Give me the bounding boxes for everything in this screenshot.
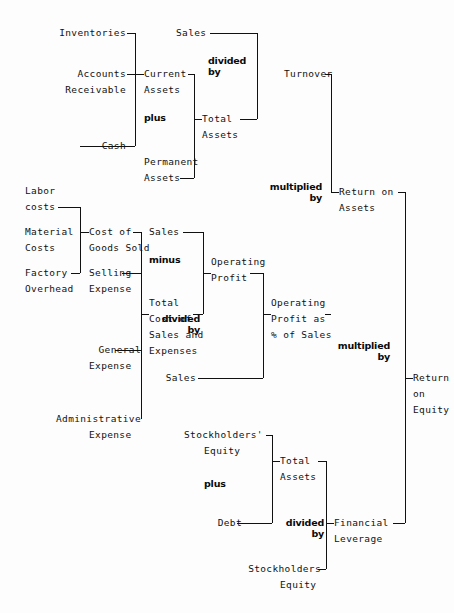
connector-current-assets-out	[135, 74, 144, 75]
connector-total-assets-top-out	[194, 119, 202, 120]
bracket-cogs-inputs	[80, 207, 81, 273]
bracket-total-assets-bottom	[272, 435, 273, 523]
bracket-operating-margin	[263, 273, 264, 378]
node-current: Current	[144, 68, 187, 79]
connector-total-assets-bottom-out	[272, 461, 280, 462]
bracket-current-assets	[135, 33, 136, 146]
node-inventories: Inventories	[46, 27, 126, 38]
connector-sales-denominator	[198, 378, 263, 379]
connector-stockholders-denominator	[318, 569, 326, 570]
node-return-on: Return on	[339, 186, 394, 197]
node-leverage: Leverage	[334, 533, 383, 544]
node-op-profit-as-line2: Profit as	[271, 313, 326, 324]
connector-financial-leverage-out	[326, 523, 334, 524]
connector-roe-out	[405, 378, 413, 379]
node-administrative-expense: Expense	[89, 429, 132, 440]
node-total-assets-top-line1: Total	[202, 113, 232, 124]
node-administrative: Administrative	[35, 413, 141, 424]
node-selling-expense: Expense	[89, 283, 132, 294]
connector-cogs-to-total	[133, 232, 141, 233]
node-accounts-receivable: Receivable	[46, 84, 126, 95]
node-return-roe-line2: on	[413, 388, 425, 399]
bracket-turnover	[257, 33, 258, 119]
connector-total-assets-bottom-to-leverage	[318, 461, 326, 462]
node-debt: Debt	[200, 517, 242, 528]
connector-profit-to-margin	[250, 273, 263, 274]
bracket-return-on-equity	[405, 192, 406, 523]
node-total-assets-bottom-line1: Total	[280, 455, 310, 466]
node-factory: Factory	[25, 267, 68, 278]
connector-sales-top	[210, 33, 257, 34]
node-op-profit-as-line3: % of Sales	[271, 329, 332, 340]
operator-multiplied-by-roe: multiplied by	[318, 340, 390, 362]
connector-accounts	[127, 74, 135, 75]
node-total-cost-line1: Total	[149, 297, 179, 308]
node-material: Material	[25, 226, 74, 237]
connector-total-assets-to-turnover-spine	[240, 119, 257, 120]
connector-selling-to-total	[122, 273, 141, 274]
node-sales-denominator: Sales	[149, 372, 196, 383]
node-return-assets: Assets	[339, 202, 375, 213]
bracket-total-assets-top	[194, 74, 195, 178]
operator-divided-by-turnover: divided by	[208, 55, 246, 77]
bracket-financial-leverage	[326, 461, 327, 569]
node-current-assets: Assets	[144, 84, 180, 95]
connector-permanent-to-total	[180, 178, 194, 179]
operator-minus-sales: minus	[149, 254, 180, 265]
node-stockholders-denominator-line1: Stockholders	[190, 563, 321, 574]
node-return-roe-line1: Return	[413, 372, 449, 383]
connector-general-to-total	[115, 350, 141, 351]
dupont-diagram: Inventories Accounts Receivable Cash Cur…	[0, 0, 454, 613]
connector-cash	[80, 146, 135, 147]
node-total-assets-bottom-line2: Assets	[280, 471, 316, 482]
connector-sales-mid	[183, 232, 203, 233]
connector-leverage-corner	[393, 523, 405, 524]
connector-operating-profit-out	[203, 273, 211, 274]
operator-divided-by-margin: divided by	[145, 313, 200, 335]
node-operating: Operating	[211, 256, 266, 267]
node-labor: Labor	[25, 185, 55, 196]
bracket-total-cost	[141, 232, 142, 419]
node-sales-mid: Sales	[149, 226, 179, 237]
spine-turnover-to-roa	[331, 74, 332, 192]
node-stockholders-denominator-line2: Equity	[280, 579, 316, 590]
node-financial: Financial	[334, 517, 389, 528]
node-total-cost-line4: Expenses	[149, 345, 198, 356]
node-factory-overhead: Overhead	[25, 283, 74, 294]
node-general-expense: Expense	[89, 360, 132, 371]
connector-roa-out	[331, 192, 339, 193]
node-stockholders-equity-line1: Stockholders'	[184, 429, 263, 440]
connector-factory	[71, 273, 80, 274]
connector-debt	[237, 523, 272, 524]
connector-inventories	[127, 33, 135, 34]
node-total-assets-top-line2: Assets	[202, 129, 238, 140]
node-material-costs: Costs	[25, 242, 55, 253]
node-permanent-assets: Assets	[144, 172, 180, 183]
operator-plus-capital: plus	[204, 478, 226, 489]
node-profit: Profit	[211, 272, 247, 283]
node-labor-costs: costs	[25, 201, 55, 212]
node-cost-of: Cost of	[89, 226, 132, 237]
node-sales-top: Sales	[176, 27, 206, 38]
node-permanent: Permanent	[144, 156, 199, 167]
connector-labor	[58, 207, 80, 208]
operator-multiplied-by-roa: multiplied by	[250, 181, 322, 203]
operator-divided-by-leverage: divided by	[272, 517, 324, 539]
node-op-profit-as-line1: Operating	[271, 297, 326, 308]
node-return-roe-line3: Equity	[413, 404, 449, 415]
connector-margin-corner	[325, 314, 331, 315]
node-stockholders-equity-line2: Equity	[204, 445, 240, 456]
node-accounts: Accounts	[46, 68, 126, 79]
connector-cogs-out	[80, 232, 89, 233]
connector-roa-corner	[398, 192, 405, 193]
connector-operating-margin-out	[263, 314, 271, 315]
operator-plus-assets: plus	[144, 112, 166, 123]
